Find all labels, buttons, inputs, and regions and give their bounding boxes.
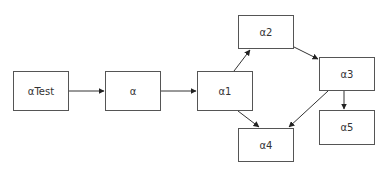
node-a[interactable]: α [105,71,161,111]
node-a3[interactable]: α3 [319,57,375,91]
node-a1[interactable]: α1 [197,71,253,111]
node-label: α [130,86,137,97]
node-a4[interactable]: α4 [238,128,294,162]
node-a5[interactable]: α5 [319,110,375,145]
edge-a2-to-a3 [294,47,318,59]
node-label: α3 [341,69,354,80]
node-atest[interactable]: αTest [13,71,69,111]
edge-a1-to-a4 [238,111,259,127]
node-a2[interactable]: α2 [238,15,294,49]
node-label: α1 [219,86,232,97]
node-label: α5 [341,122,354,133]
node-label: αTest [28,86,54,97]
node-label: α2 [260,27,273,38]
diagram-canvas: αTest α α1 α2 α3 α4 α5 [0,0,385,172]
node-label: α4 [260,140,273,151]
edge-a1-to-a2 [234,50,250,71]
